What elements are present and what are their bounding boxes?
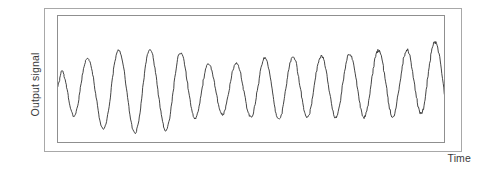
x-axis-label: Time (447, 152, 471, 164)
plot-area (57, 15, 445, 143)
signal-trace (58, 42, 445, 134)
y-axis-label: Output signal (28, 0, 42, 169)
signal-waveform (58, 16, 445, 143)
figure-container: Output signal Time (0, 0, 484, 169)
